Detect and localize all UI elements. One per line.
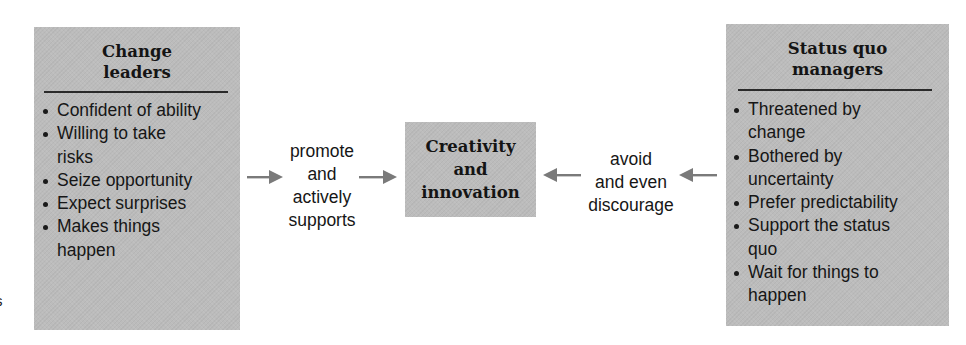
item-text: Expect surprises — [57, 192, 201, 215]
list-item: Prefer predictability — [732, 191, 898, 214]
list-item: Support the status quo — [732, 214, 898, 261]
status-quo-managers-title: Status quo managers — [726, 38, 949, 80]
label-line: promote — [278, 140, 366, 163]
item-text: Prefer predictability — [748, 191, 898, 214]
bullet-icon — [43, 202, 48, 207]
list-item: Willing to take risks — [41, 122, 201, 169]
item-text: Confident of ability — [57, 99, 201, 122]
title-line: Status quo — [726, 38, 949, 59]
item-text: Makes things — [57, 215, 201, 238]
item-text: quo — [748, 238, 898, 261]
creativity-innovation-box: Creativity and innovation — [405, 122, 536, 217]
item-text: Wait for things to — [748, 261, 898, 284]
label-line: actively — [278, 186, 366, 209]
bullet-icon — [734, 155, 739, 160]
item-text: change — [748, 121, 898, 144]
bullet-icon — [734, 271, 739, 276]
bullet-icon — [43, 132, 48, 137]
change-leaders-title: Change leaders — [34, 41, 240, 83]
item-text: Seize opportunity — [57, 169, 201, 192]
label-line: and — [278, 163, 366, 186]
item-text: Threatened by — [748, 98, 898, 121]
avoid-label: avoid and even discourage — [576, 148, 686, 217]
promote-label: promote and actively supports — [278, 140, 366, 232]
title-line: leaders — [34, 62, 240, 83]
edge-text-fragment: s — [0, 292, 3, 309]
label-line: and even — [576, 171, 686, 194]
status-quo-managers-list: Threatened by change Bothered by uncerta… — [732, 98, 898, 308]
item-text: Bothered by — [748, 145, 898, 168]
label-line: supports — [278, 209, 366, 232]
title-line: Creativity — [421, 135, 519, 158]
title-line: managers — [726, 59, 949, 80]
label-line: avoid — [576, 148, 686, 171]
left-arrow-icon — [679, 168, 717, 182]
label-line: discourage — [576, 194, 686, 217]
change-leaders-list: Confident of ability Willing to take ris… — [41, 99, 201, 262]
list-item: Wait for things to happen — [732, 261, 898, 308]
list-item: Expect surprises — [41, 192, 201, 215]
status-quo-managers-box: Status quo managers Threatened by change… — [726, 24, 949, 326]
title-line: innovation — [421, 181, 519, 204]
list-item: Makes things happen — [41, 215, 201, 262]
item-text: happen — [748, 284, 898, 307]
list-item: Bothered by uncertainty — [732, 145, 898, 192]
bullet-icon — [43, 225, 48, 230]
title-line: Change — [34, 41, 240, 62]
center-title: Creativity and innovation — [421, 135, 519, 204]
item-text: Support the status — [748, 214, 898, 237]
header-rule — [738, 89, 932, 91]
bullet-icon — [43, 109, 48, 114]
change-leaders-box: Change leaders Confident of ability Will… — [34, 27, 240, 330]
item-text: happen — [57, 239, 201, 262]
header-rule — [44, 91, 228, 93]
list-item: Threatened by change — [732, 98, 898, 145]
item-text: risks — [57, 146, 201, 169]
right-arrow-icon — [359, 170, 397, 184]
item-text: Willing to take — [57, 122, 201, 145]
list-item: Seize opportunity — [41, 169, 201, 192]
title-line: and — [421, 158, 519, 181]
bullet-icon — [734, 201, 739, 206]
bullet-icon — [43, 179, 48, 184]
bullet-icon — [734, 224, 739, 229]
item-text: uncertainty — [748, 168, 898, 191]
bullet-icon — [734, 108, 739, 113]
list-item: Confident of ability — [41, 99, 201, 122]
